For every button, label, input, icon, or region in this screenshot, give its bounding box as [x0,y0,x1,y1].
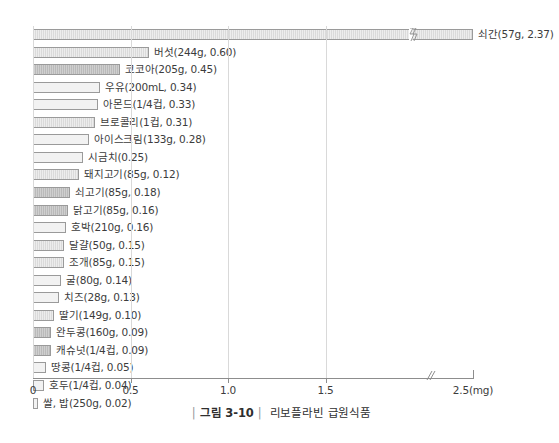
bar-16 [33,292,59,303]
bar-6 [33,117,95,128]
axis-break-icon [424,371,438,381]
gridline-1.5 [326,26,327,378]
bar-label-13: 달걀(50g, 0.15) [69,238,145,252]
bar-label-3: 코코아(205g, 0.45) [125,62,217,76]
gridline-origin [33,26,34,378]
bar-5 [33,99,98,110]
x-axis-line [33,378,473,379]
bar-15 [33,275,61,286]
bar-label-16: 치즈(28g, 0.13) [64,290,140,304]
bar-label-2: 버섯(244g, 0.60) [154,45,236,59]
bar-label-1: 쇠간(57g, 2.37) [478,27,554,41]
bar-1 [33,29,473,40]
bar-label-11: 닭고기(85g, 0.16) [73,203,158,217]
bar-14 [33,257,64,268]
bar-label-9: 돼지고기(85g, 0.12) [84,167,179,181]
figure-riboflavin-sources: 쇠간(57g, 2.37)버섯(244g, 0.60)코코아(205g, 0.4… [0,0,559,443]
bar-label-8: 시금치(0.25) [88,150,148,164]
bar-18 [33,327,51,338]
bar-12 [33,222,66,233]
bar-13 [33,240,64,251]
bar-label-7: 아이스크림(133g, 0.28) [94,132,206,146]
x-tick-2.5(mg) [473,370,474,379]
caption-bar-right: | [254,406,266,420]
bar-label-12: 호박(210g, 0.16) [71,220,153,234]
bar-label-18: 완두콩(160g, 0.09) [56,325,148,339]
bar-9 [33,169,79,180]
bar-19 [33,345,51,356]
caption-bar-left: | [188,406,200,420]
bar-17 [33,310,54,321]
bar-label-20: 땅콩(1/4컵, 0.05) [51,360,133,374]
bar-3 [33,64,120,75]
caption-figure-number: 그림 3-10 [200,406,254,420]
x-tick-label-2.5(mg): 2.5(mg) [453,384,493,397]
bar-label-15: 굴(80g, 0.14) [66,273,132,287]
bar-20 [33,362,46,373]
bar-label-4: 우유(200mL, 0.34) [105,80,196,94]
bar-label-6: 브로콜리(1컵, 0.31) [100,115,192,129]
bar-2 [33,47,149,58]
gridline-1.0 [228,26,229,378]
x-tick-label-1.0: 1.0 [220,384,236,397]
gridline-0.5 [131,26,132,378]
x-tick-label-1.5: 1.5 [317,384,333,397]
x-tick-1.5 [326,378,327,383]
bar-10 [33,187,70,198]
bar-8 [33,152,83,163]
bar-11 [33,205,68,216]
bar-label-10: 쇠고기(85g, 0.18) [75,185,160,199]
bar-label-19: 캐슈넛(1/4컵, 0.09) [56,343,148,357]
bar-7 [33,134,89,145]
figure-caption: |그림 3-10|리보플라빈 급원식품 [0,405,559,421]
bar-label-14: 조개(85g, 0.15) [69,255,145,269]
x-tick-1.0 [228,378,229,383]
x-tick-label-0: 0 [30,384,36,397]
caption-title: 리보플라빈 급원식품 [266,406,372,420]
bar-label-21: 호두(1/4컵, 0.04) [49,378,131,392]
x-tick-0.5 [131,378,132,383]
bar-4 [33,82,100,93]
bar-label-5: 아몬드(1/4컵, 0.33) [103,97,195,111]
bar-label-17: 딸기(149g, 0.10) [59,308,141,322]
chart-plot-area: 쇠간(57g, 2.37)버섯(244g, 0.60)코코아(205g, 0.4… [33,26,473,378]
x-tick-label-0.5: 0.5 [122,384,138,397]
